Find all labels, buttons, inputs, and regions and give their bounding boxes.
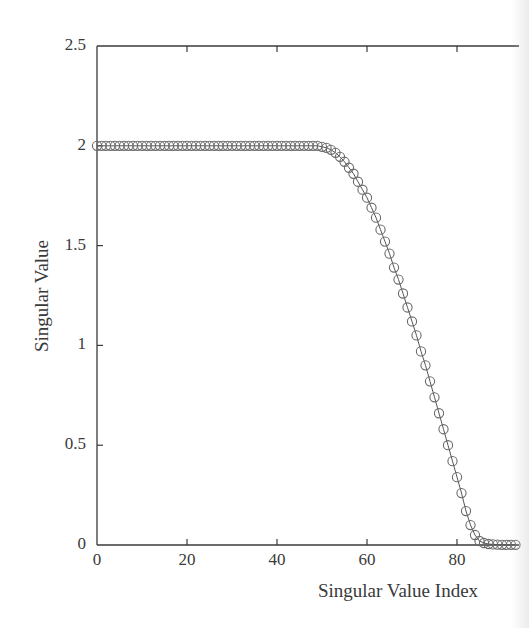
y-tick-label: 2.5	[26, 35, 86, 55]
y-tick-label: 0.5	[26, 434, 86, 454]
axes	[97, 46, 519, 545]
y-axis-title: Singular Value	[31, 216, 53, 376]
page-fold-shadow	[511, 0, 529, 628]
x-tick-label: 60	[347, 550, 387, 570]
y-tick-label: 2	[26, 135, 86, 155]
y-tick-label: 0	[26, 534, 86, 554]
data-series	[92, 141, 520, 549]
x-tick-label: 40	[257, 550, 297, 570]
x-axis-title: Singular Value Index	[318, 580, 478, 602]
x-tick-label: 20	[167, 550, 207, 570]
x-tick-label: 80	[437, 550, 477, 570]
